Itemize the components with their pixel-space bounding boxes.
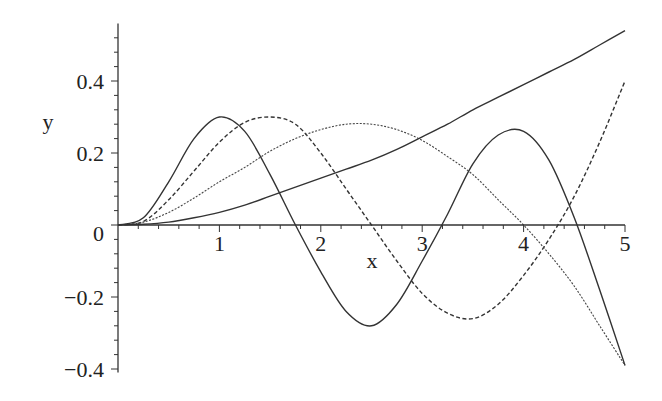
x-tick-label: 3: [417, 231, 428, 256]
x-ticks: 12345: [138, 225, 630, 256]
y-axis-label: y: [43, 109, 54, 134]
y-tick-label: −0.4: [64, 357, 104, 382]
axes: 12345 −0.4−0.200.20.4: [64, 23, 630, 382]
series-line-2: [118, 81, 625, 319]
x-tick-label: 4: [518, 231, 529, 256]
y-ticks: −0.4−0.200.20.4: [64, 38, 118, 382]
x-tick-label: 1: [214, 231, 225, 256]
y-tick-label: 0.4: [77, 69, 105, 94]
x-tick-label: 2: [315, 231, 326, 256]
series-line-4: [118, 31, 625, 225]
x-axis-label: x: [367, 248, 378, 273]
y-tick-label: 0: [93, 221, 104, 246]
y-tick-label: 0.2: [77, 141, 105, 166]
y-tick-label: −0.2: [64, 285, 104, 310]
series-layer: [118, 31, 625, 366]
x-tick-label: 5: [620, 231, 631, 256]
series-line-1: [118, 117, 625, 366]
line-chart: 12345 −0.4−0.200.20.4 x y: [0, 0, 662, 401]
